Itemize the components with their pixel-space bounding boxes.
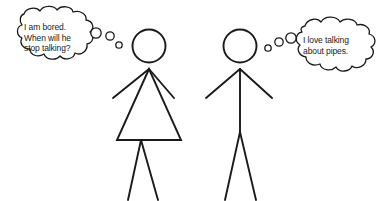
right-tail-bubble-medium [275, 38, 283, 46]
left-tail-bubble-small [116, 42, 122, 48]
left-figure-leg-left [128, 140, 141, 200]
right-figure-arm-right [240, 69, 272, 98]
left-tail-bubble-medium [106, 32, 114, 40]
left-figure-leg-right [141, 140, 158, 200]
right-figure-leg-left [225, 132, 240, 200]
cartoon-scene: I am bored. When will he stop talking? I… [0, 0, 383, 201]
left-figure-dress [117, 69, 181, 140]
right-figure-arm-left [206, 69, 240, 98]
right-thought-tail [265, 33, 296, 51]
left-figure-head [133, 30, 166, 63]
left-thought-tail [91, 28, 122, 48]
left-figure-arm-right [149, 69, 174, 98]
left-figure-arm-left [113, 69, 149, 98]
right-figure-head [224, 30, 257, 63]
left-stick-figure [113, 30, 181, 201]
right-thought-bubble-text: I love talking about pipes. [303, 35, 363, 56]
right-tail-bubble-small [265, 45, 271, 51]
left-tail-bubble-large [91, 28, 101, 38]
right-stick-figure [206, 30, 272, 201]
right-tail-bubble-large [286, 33, 296, 43]
left-thought-bubble-text: I am bored. When will he stop talking? [24, 22, 84, 54]
right-figure-leg-right [240, 132, 256, 200]
